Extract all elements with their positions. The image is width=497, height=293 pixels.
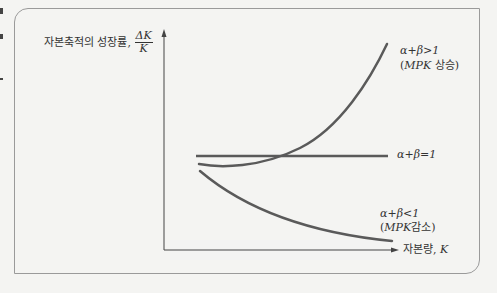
- curve-decreasing: [200, 171, 392, 241]
- note-var: MPK: [384, 221, 411, 234]
- note-text: 감소: [411, 221, 431, 234]
- y-axis-arrow-icon: [162, 29, 167, 37]
- note-text: 상승: [431, 59, 455, 72]
- x-axis-arrow-icon: [391, 248, 399, 253]
- note-var: MPK: [404, 59, 431, 72]
- y-axis-label-text: 자본축적의 성장률,: [44, 36, 131, 49]
- label-constant-condition: α+β=1: [397, 148, 436, 162]
- label-increasing-condition: α+β>1: [400, 44, 439, 58]
- x-axis-var: K: [440, 243, 448, 256]
- y-axis-fraction: ΔK K: [135, 30, 153, 55]
- curve-increasing: [199, 44, 387, 166]
- label-increasing-note: (MPK 상승): [400, 59, 459, 73]
- label-decreasing-condition: α+β<1: [380, 207, 419, 221]
- fraction-denominator: K: [135, 43, 153, 55]
- y-axis-label: 자본축적의 성장률, ΔK K: [44, 30, 153, 55]
- label-decreasing-note: (MPK감소): [380, 221, 435, 235]
- x-axis-label: 자본량, K: [403, 243, 448, 257]
- x-axis-label-text: 자본량,: [403, 243, 437, 256]
